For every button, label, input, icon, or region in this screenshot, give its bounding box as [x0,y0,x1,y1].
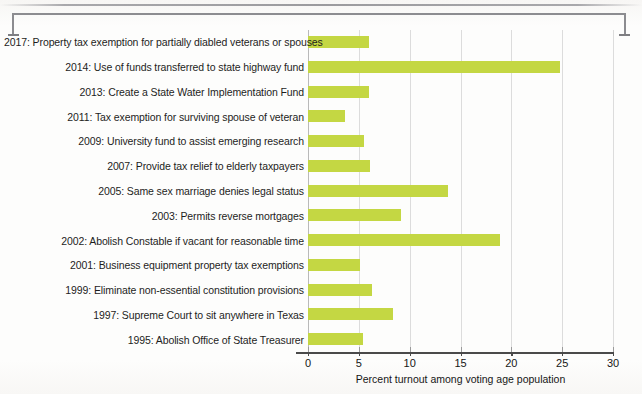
bar-row [308,253,613,278]
bar-row [308,30,613,55]
x-tick-15 [461,352,462,356]
gridline-30 [613,30,614,352]
x-tick-label-0: 0 [305,357,311,369]
bar-row [308,278,613,303]
x-axis-title: Percent turnout among voting age populat… [308,373,613,385]
x-tick-up-30 [613,347,614,352]
x-tick-label-5: 5 [356,357,362,369]
category-label: 2017: Property tax exemption for partial… [4,36,304,48]
category-label: 2007: Provide tax relief to elderly taxp… [4,160,304,172]
bar-row [308,129,613,154]
bar [308,308,393,320]
x-tick-20 [511,352,512,356]
x-tick-25 [562,352,563,356]
bar-rows [308,30,613,352]
category-label: 2005: Same sex marriage denies legal sta… [4,185,304,197]
bar [308,209,401,221]
bar [308,61,560,73]
x-tick-up-20 [511,347,512,352]
category-label: 2003: Permits reverse mortgages [4,210,304,222]
bar-row [308,104,613,129]
x-tick-label-10: 10 [404,357,416,369]
bar [308,160,370,172]
category-label: 2013: Create a State Water Implementatio… [4,86,304,98]
category-label: 2009: University fund to assist emerging… [4,135,304,147]
x-tick-label-30: 30 [607,357,619,369]
category-label: 1995: Abolish Office of State Treasurer [4,334,304,346]
bar [308,259,360,271]
bar-row [308,55,613,80]
bar [308,234,500,246]
bar [308,135,364,147]
bar-row [308,154,613,179]
bar [308,110,345,122]
x-tick-up-25 [562,347,563,352]
bar [308,333,363,345]
category-label: 2011: Tax exemption for surviving spouse… [4,111,304,123]
bar [308,86,369,98]
x-tick-up-15 [461,347,462,352]
x-tick-up-0 [308,347,309,352]
category-label: 2014: Use of funds transferred to state … [4,61,304,73]
x-tick-label-15: 15 [454,357,466,369]
bar-chart: 2017: Property tax exemption for partial… [0,0,642,394]
x-tick-up-10 [410,347,411,352]
bar-row [308,179,613,204]
bar-row [308,80,613,105]
bar-row [308,302,613,327]
category-label: 2001: Business equipment property tax ex… [4,259,304,271]
bar-row [308,228,613,253]
x-tick-label-20: 20 [505,357,517,369]
x-tick-5 [359,352,360,356]
bar [308,185,448,197]
x-tick-up-5 [359,347,360,352]
plot-area [308,30,613,352]
bar [308,284,372,296]
category-label: 1997: Supreme Court to sit anywhere in T… [4,309,304,321]
category-label: 1999: Eliminate non-essential constituti… [4,284,304,296]
x-tick-30 [613,352,614,356]
x-tick-0 [308,352,309,356]
x-tick-label-25: 25 [556,357,568,369]
category-label: 2002: Abolish Constable if vacant for re… [4,235,304,247]
x-tick-10 [410,352,411,356]
bar-row [308,203,613,228]
